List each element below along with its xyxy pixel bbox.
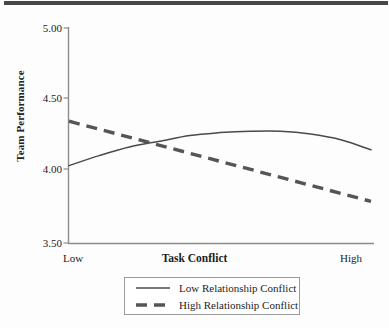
legend-item-high-relationship-conflict: High Relationship Conflict bbox=[125, 296, 299, 314]
legend-swatch-solid-icon bbox=[133, 281, 173, 295]
series-line-low-relationship-conflict bbox=[69, 131, 371, 166]
legend-swatch-dashed-icon bbox=[133, 298, 173, 312]
chart-figure: Team Performance 5.00 4.50 4.00 3.50 Low… bbox=[0, 0, 389, 328]
legend-label-high-relationship-conflict: High Relationship Conflict bbox=[179, 299, 298, 311]
x-axis-label: Task Conflict bbox=[0, 252, 389, 264]
legend-item-low-relationship-conflict: Low Relationship Conflict bbox=[125, 279, 299, 297]
chart-legend: Low Relationship Conflict High Relations… bbox=[124, 277, 300, 315]
legend-label-low-relationship-conflict: Low Relationship Conflict bbox=[179, 282, 296, 294]
